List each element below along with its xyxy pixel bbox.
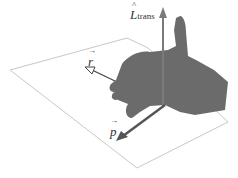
p-symbol: p bbox=[110, 125, 117, 138]
r-symbol: r bbox=[88, 55, 93, 68]
right-hand-rule-diagram: Ltrans r p bbox=[0, 0, 238, 178]
p-label: p bbox=[110, 125, 117, 138]
diagram-canvas bbox=[0, 0, 238, 178]
L-symbol: L bbox=[130, 8, 137, 21]
L-subscript: trans bbox=[137, 11, 155, 21]
r-arrow bbox=[92, 70, 115, 81]
r-label: r bbox=[88, 55, 93, 68]
L-arrow-head bbox=[159, 7, 167, 18]
L-trans-label: Ltrans bbox=[130, 8, 155, 21]
hand bbox=[114, 16, 228, 118]
